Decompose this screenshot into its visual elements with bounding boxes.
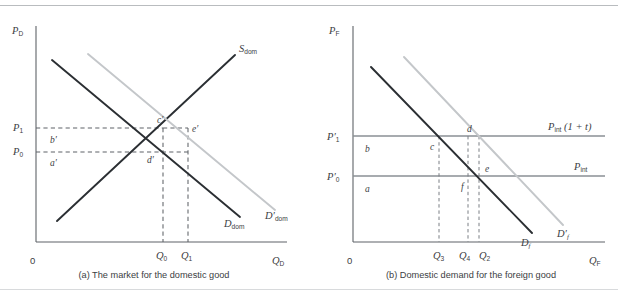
panel-b-origin-label: 0 <box>347 255 352 266</box>
panel-a-origin-label: 0 <box>30 255 35 266</box>
top-divider-rule <box>0 5 618 6</box>
panel-b-area-a: a <box>365 184 370 194</box>
panel-a-caption: (a) The market for the domestic good <box>79 270 230 280</box>
panel-b-point-c: c <box>430 142 435 152</box>
panel-b-quantity-tick-q4: Q4 <box>459 250 471 262</box>
panel-a-point-e-prime: e′ <box>192 124 199 134</box>
panel-a-demand-curve <box>52 60 240 217</box>
panel-b-caption: (b) Domestic demand for the foreign good <box>386 270 556 280</box>
panel-a-quantity-tick-q0: Q0 <box>156 250 168 262</box>
panel-b-price-tick-p0-prime: P′0 <box>326 171 340 183</box>
panel-b-quantity-tick-q2: Q2 <box>479 250 491 262</box>
panel-a-y-axis-label: PD <box>11 25 23 37</box>
panel-b-price-line-international-label: Pint <box>573 161 588 173</box>
panel-a-supply-curve-label: Sdom <box>239 43 258 55</box>
panel-b-demand-curve-label: Df <box>520 237 532 249</box>
panel-a-area-a-prime: a′ <box>50 158 58 168</box>
figure-page: PD QD 0 Sdom Ddom D′dom P1 P0 <box>0 0 618 294</box>
panel-a-svg: PD QD 0 Sdom Ddom D′dom P1 P0 <box>0 12 309 280</box>
panel-a-demand-curve-shifted <box>88 54 275 210</box>
panel-a-price-tick-p0: P0 <box>12 146 23 158</box>
panel-b-point-e: e <box>485 164 489 174</box>
panel-b-price-line-tariff-label: Pint (1 + t) <box>547 121 592 133</box>
panel-b-y-axis-label: PF <box>328 25 339 37</box>
bottom-divider-rule <box>0 289 618 290</box>
panel-b-point-d: d <box>467 124 472 134</box>
panel-b-demand-curve-shifted-label: D′f <box>556 228 570 240</box>
panel-a-domestic-market: PD QD 0 Sdom Ddom D′dom P1 P0 <box>0 12 309 280</box>
panel-a-point-d-prime: d′ <box>147 155 155 165</box>
panel-b-price-tick-p1-prime: P′1 <box>326 131 340 143</box>
panel-b-demand-curve <box>371 67 532 233</box>
panel-b-foreign-demand: PF QF 0 Df D′f Pint (1 + t) Pint P′1 <box>309 12 618 280</box>
panel-b-x-axis-label: QF <box>589 255 601 267</box>
panel-a-demand-curve-label: Ddom <box>223 218 245 230</box>
panel-b-svg: PF QF 0 Df D′f Pint (1 + t) Pint P′1 <box>309 12 618 280</box>
panel-a-point-c-prime: c′ <box>157 115 164 125</box>
panel-b-point-f: f <box>461 182 465 192</box>
panel-b-area-b: b <box>365 144 370 154</box>
panel-b-quantity-tick-q3: Q3 <box>433 250 445 262</box>
panel-a-x-axis-label: QD <box>272 255 285 267</box>
panel-a-area-b-prime: b′ <box>50 135 58 145</box>
panel-a-quantity-tick-q1: Q1 <box>181 250 193 262</box>
panel-b-demand-curve-shifted <box>404 57 563 225</box>
panel-a-price-tick-p1: P1 <box>12 122 23 134</box>
panel-a-demand-curve-shifted-label: D′dom <box>264 210 288 222</box>
